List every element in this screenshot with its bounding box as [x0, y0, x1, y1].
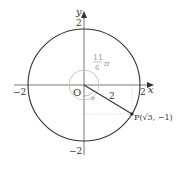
point-p-label: P(√3, −1): [134, 113, 173, 122]
x-axis-label: x: [148, 84, 154, 95]
angle-pi: π: [103, 59, 110, 68]
y-axis-arrow-icon: [81, 11, 87, 18]
tick-y-neg: −2: [69, 146, 82, 156]
segment-label: 2: [109, 91, 115, 101]
angle-numerator: 11: [93, 53, 103, 62]
tick-x-pos: 2: [140, 87, 146, 97]
angle-denominator: 6: [95, 64, 100, 72]
origin-label: O: [73, 87, 81, 98]
y-axis-label: y: [75, 6, 82, 17]
tick-x-neg: −2: [13, 87, 26, 97]
tick-y-pos: 2: [76, 18, 82, 28]
diagram: y x O 2 −2 2 −2 11 6 π π 2 P(√3, −1): [0, 0, 188, 169]
